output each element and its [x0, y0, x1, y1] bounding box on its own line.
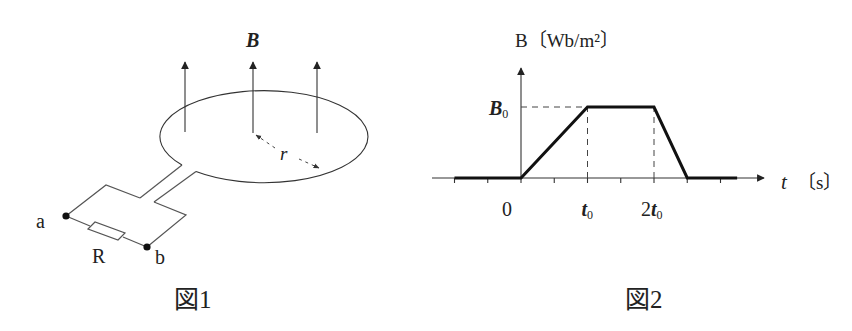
circuit-wire-lower-left: [66, 216, 90, 226]
circuit-wire-right: [147, 202, 186, 247]
resistor-label: R: [92, 245, 106, 267]
y-axis-label: B〔Wb/m²〕: [515, 30, 619, 51]
lead-right: [154, 172, 196, 203]
lead-left: [140, 165, 182, 198]
radius-arrow-2: [299, 159, 319, 168]
resistor-R: [88, 222, 125, 240]
figure-1: a b R B r 図1: [36, 29, 368, 313]
x-axis-label-var: t: [781, 170, 788, 194]
x-tick-label-1: t0: [582, 198, 594, 222]
circuit-wire-lower-right: [123, 237, 147, 247]
terminal-a-dot: [62, 212, 69, 219]
figure-1-caption: 図1: [174, 286, 212, 313]
y-tick-label-B0-sub: 0: [502, 107, 508, 121]
x-tick-label-0: 0: [502, 198, 512, 220]
figure-2-caption: 図2: [625, 286, 663, 313]
terminal-b-dot: [143, 243, 150, 250]
figure-2: B〔Wb/m²〕 t 〔s〕 B0 0t02t0 図2: [432, 30, 842, 313]
x-axis-label-unit: 〔s〕: [797, 172, 842, 193]
radius-arrow-1: [256, 135, 275, 148]
guide-lines: [521, 107, 654, 178]
x-tick-labels: 0t02t0: [502, 198, 663, 222]
y-tick-label-B0: B0: [488, 97, 508, 121]
terminal-b-label: b: [155, 246, 165, 268]
radius-label-r: r: [280, 143, 288, 164]
figures-canvas: a b R B r 図1 B〔Wb/m²〕 t 〔s〕 B0 0t02t0 図2: [0, 0, 852, 331]
coil-loop: [160, 91, 368, 183]
circuit-wire-upper: [66, 185, 140, 216]
field-label-B: B: [245, 29, 259, 51]
y-tick-label-B0-main: B: [488, 97, 502, 119]
x-tick-label-2: 2t0: [641, 198, 663, 222]
terminal-a-label: a: [36, 210, 45, 232]
